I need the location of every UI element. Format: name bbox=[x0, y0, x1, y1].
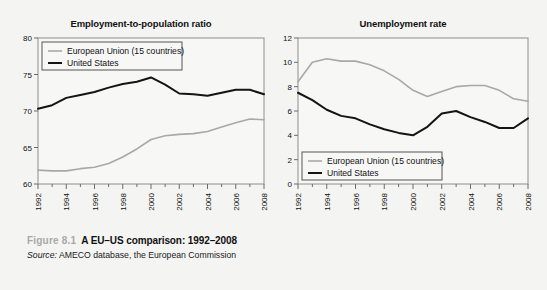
figure-number: Figure 8.1 bbox=[27, 235, 76, 246]
x-tick-label-2004: 2004 bbox=[467, 192, 476, 210]
y-tick-label-70: 70 bbox=[23, 107, 32, 116]
legend-item-us-label: United States bbox=[67, 58, 119, 68]
x-tick-label-1994: 1994 bbox=[62, 192, 71, 210]
x-tick-label-2006: 2006 bbox=[495, 192, 504, 210]
chart-svg-employment: 6065707580199219941996199820002002200420… bbox=[12, 32, 270, 232]
y-tick-label-2: 2 bbox=[288, 156, 293, 165]
x-tick-label-1996: 1996 bbox=[352, 192, 361, 210]
x-tick-label-1992: 1992 bbox=[294, 192, 303, 210]
legend-item-us-label: United States bbox=[327, 168, 379, 178]
y-tick-label-65: 65 bbox=[23, 144, 32, 153]
y-tick-label-6: 6 bbox=[288, 107, 293, 116]
chart-panel-unemployment: Unemployment rate 0246810121992199419961… bbox=[272, 18, 534, 232]
x-tick-label-2000: 2000 bbox=[147, 192, 156, 210]
y-tick-label-80: 80 bbox=[23, 34, 32, 43]
figure-title: A EU–US comparison: 1992–2008 bbox=[81, 235, 237, 246]
source-label: Source: bbox=[27, 250, 57, 260]
x-tick-label-2004: 2004 bbox=[204, 192, 213, 210]
source-text: AMECO database, the European Commission bbox=[57, 250, 236, 260]
x-tick-label-2008: 2008 bbox=[260, 192, 269, 210]
chart-panel-employment: Employment-to-population ratio 606570758… bbox=[12, 18, 270, 232]
x-tick-label-2008: 2008 bbox=[524, 192, 533, 210]
x-tick-label-1996: 1996 bbox=[91, 192, 100, 210]
chart-title-employment: Employment-to-population ratio bbox=[12, 18, 270, 30]
y-tick-label-0: 0 bbox=[288, 180, 293, 189]
y-tick-label-4: 4 bbox=[288, 131, 293, 140]
x-tick-label-1992: 1992 bbox=[34, 192, 43, 210]
x-tick-label-2002: 2002 bbox=[438, 192, 447, 210]
x-tick-label-2002: 2002 bbox=[175, 192, 184, 210]
x-tick-label-2006: 2006 bbox=[232, 192, 241, 210]
y-tick-label-60: 60 bbox=[23, 180, 32, 189]
legend: European Union (15 countries)United Stat… bbox=[302, 152, 444, 180]
legend: European Union (15 countries)United Stat… bbox=[42, 42, 184, 70]
chart-svg-unemployment: 0246810121992199419961998200020022004200… bbox=[272, 32, 534, 232]
y-tick-label-12: 12 bbox=[283, 34, 292, 43]
figure-caption: Figure 8.1A EU–US comparison: 1992–2008 … bbox=[27, 234, 527, 262]
legend-item-eu-label: European Union (15 countries) bbox=[67, 46, 184, 56]
x-tick-label-2000: 2000 bbox=[409, 192, 418, 210]
x-tick-label-1994: 1994 bbox=[323, 192, 332, 210]
caption-source-line: Source: AMECO database, the European Com… bbox=[27, 249, 527, 262]
x-tick-label-1998: 1998 bbox=[119, 192, 128, 210]
y-tick-label-75: 75 bbox=[23, 71, 32, 80]
y-tick-label-10: 10 bbox=[283, 58, 292, 67]
y-tick-label-8: 8 bbox=[288, 83, 293, 92]
caption-title-line: Figure 8.1A EU–US comparison: 1992–2008 bbox=[27, 234, 527, 248]
figure-container: Employment-to-population ratio 606570758… bbox=[0, 0, 547, 290]
x-tick-label-1998: 1998 bbox=[380, 192, 389, 210]
legend-item-eu-label: European Union (15 countries) bbox=[327, 156, 444, 166]
chart-title-unemployment: Unemployment rate bbox=[272, 18, 534, 30]
